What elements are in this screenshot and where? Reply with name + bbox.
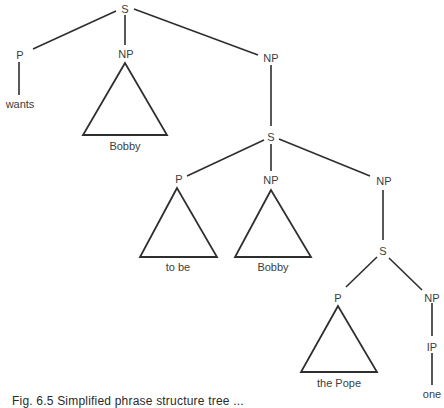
edge-s2-np4 bbox=[279, 139, 370, 176]
node-p1: P bbox=[16, 49, 23, 61]
triangle-p3 bbox=[301, 306, 377, 372]
leaf-the-pope: the Pope bbox=[317, 377, 361, 389]
node-p3: P bbox=[334, 292, 341, 304]
tree-leaf-labels: wants Bobby to be Bobby the Pope one bbox=[5, 98, 442, 400]
node-s3: S bbox=[379, 245, 386, 257]
triangle-p2 bbox=[140, 188, 217, 257]
leaf-wants: wants bbox=[5, 98, 35, 110]
node-np4: NP bbox=[376, 175, 391, 187]
edge-s3-p3 bbox=[346, 257, 377, 287]
tree-edges bbox=[19, 9, 432, 385]
leaf-bobby-1: Bobby bbox=[109, 140, 141, 152]
leaf-one: one bbox=[423, 388, 441, 400]
leaf-bobby-2: Bobby bbox=[257, 261, 289, 273]
leaf-to-be: to be bbox=[166, 261, 190, 273]
tree-triangles bbox=[83, 63, 377, 372]
edge-s1-p1 bbox=[33, 11, 116, 49]
node-np5: NP bbox=[424, 292, 439, 304]
node-np2: NP bbox=[263, 52, 278, 64]
node-s1: S bbox=[121, 3, 128, 15]
node-np1: NP bbox=[118, 48, 133, 60]
triangle-np3 bbox=[235, 190, 311, 257]
tree-node-labels: S P NP NP S P NP NP S P NP IP bbox=[16, 3, 439, 353]
figure-caption: Fig. 6.5 Simplified phrase structure tre… bbox=[12, 394, 244, 408]
node-ip1: IP bbox=[427, 341, 437, 353]
node-p2: P bbox=[175, 173, 182, 185]
node-np3: NP bbox=[263, 174, 278, 186]
edge-s1-np2 bbox=[134, 9, 258, 55]
edge-s2-p2 bbox=[187, 140, 264, 176]
node-s2: S bbox=[267, 131, 274, 143]
triangle-np1 bbox=[83, 63, 167, 135]
edge-s3-np5 bbox=[389, 258, 422, 290]
